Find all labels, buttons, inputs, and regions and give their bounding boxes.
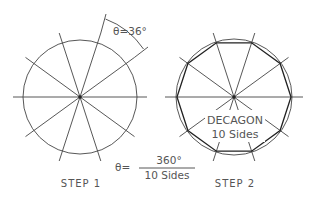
angle-extension-line <box>135 47 149 57</box>
step2-label: STEP 2 <box>215 178 255 189</box>
decagon-sides-label: 10 Sides <box>211 128 258 141</box>
formula-denominator: 10 Sides <box>145 169 190 181</box>
formula-numerator: 360° <box>156 154 181 166</box>
decagon-label: DECAGON <box>207 114 263 127</box>
decagon-construction-diagram: θ=36° DECAGON 10 Sides θ= 360° 10 Sides … <box>0 0 313 197</box>
angle-annotation: θ=36° <box>113 25 147 37</box>
step2-center-point <box>232 95 235 98</box>
formula-lhs: θ= <box>115 161 130 173</box>
angle-extension-line <box>101 14 106 33</box>
step1-label: STEP 1 <box>61 178 101 189</box>
step1-center-point <box>78 95 81 98</box>
